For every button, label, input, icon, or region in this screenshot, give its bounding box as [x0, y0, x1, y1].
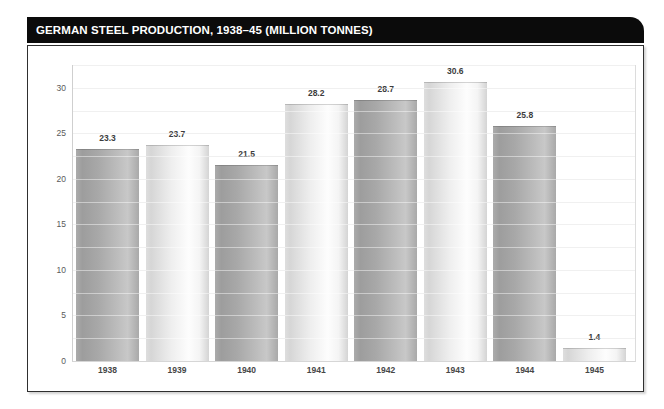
- bar-1943: [424, 82, 487, 361]
- x-tick-label: 1942: [354, 365, 417, 375]
- gridline-overlay: [73, 133, 635, 134]
- bar-slot: 28.71942: [354, 65, 417, 361]
- bar-slot: 23.31938: [76, 65, 139, 361]
- chart-title: GERMAN STEEL PRODUCTION, 1938–45 (MILLIO…: [36, 24, 373, 36]
- x-tick-label: 1941: [285, 365, 348, 375]
- bar-slot: 23.71939: [146, 65, 209, 361]
- gridline-overlay: [73, 338, 635, 339]
- gridline-overlay: [73, 270, 635, 271]
- bar-value-label: 30.6: [424, 66, 487, 76]
- y-tick-label: 10: [28, 265, 66, 275]
- y-tick-label: 30: [28, 83, 66, 93]
- plot-area: 23.3193823.7193921.5194028.2194128.71942…: [72, 65, 636, 362]
- gridline-overlay: [73, 293, 635, 294]
- page: GERMAN STEEL PRODUCTION, 1938–45 (MILLIO…: [0, 0, 664, 409]
- gridline-overlay: [73, 179, 635, 180]
- x-tick-label: 1945: [563, 365, 626, 375]
- bars: 23.3193823.7193921.5194028.2194128.71942…: [73, 65, 635, 361]
- gridline-overlay: [73, 111, 635, 112]
- chart-panel: 051015202530 23.3193823.7193921.5194028.…: [27, 45, 644, 392]
- bar-slot: 21.51940: [215, 65, 278, 361]
- x-tick-label: 1940: [215, 365, 278, 375]
- bar-1939: [146, 145, 209, 361]
- bar-1940: [215, 165, 278, 361]
- gridline-overlay: [73, 156, 635, 157]
- x-tick-label: 1944: [493, 365, 556, 375]
- gridline-overlay: [73, 315, 635, 316]
- bar-1941: [285, 104, 348, 361]
- gridline-overlay: [73, 65, 635, 66]
- x-tick-label: 1938: [76, 365, 139, 375]
- x-tick-label: 1939: [146, 365, 209, 375]
- x-tick-label: 1943: [424, 365, 487, 375]
- y-tick-label: 5: [28, 310, 66, 320]
- bar-slot: 1.41945: [563, 65, 626, 361]
- y-tick-label: 20: [28, 174, 66, 184]
- bar-slot: 30.61943: [424, 65, 487, 361]
- gridline-overlay: [73, 247, 635, 248]
- y-tick-label: 0: [28, 356, 66, 366]
- bar-1938: [76, 149, 139, 361]
- bar-1944: [493, 126, 556, 361]
- chart-card: GERMAN STEEL PRODUCTION, 1938–45 (MILLIO…: [27, 17, 644, 392]
- chart-title-bar: GERMAN STEEL PRODUCTION, 1938–45 (MILLIO…: [27, 17, 644, 43]
- gridline-overlay: [73, 224, 635, 225]
- bar-value-label: 28.2: [285, 88, 348, 98]
- bar-1942: [354, 100, 417, 361]
- y-tick-label: 15: [28, 219, 66, 229]
- bar-1945: [563, 348, 626, 361]
- y-axis-labels: 051015202530: [28, 65, 66, 361]
- y-tick-label: 25: [28, 128, 66, 138]
- gridline-overlay: [73, 202, 635, 203]
- bar-slot: 28.21941: [285, 65, 348, 361]
- gridline-overlay: [73, 88, 635, 89]
- bar-slot: 25.81944: [493, 65, 556, 361]
- bar-value-label: 21.5: [215, 149, 278, 159]
